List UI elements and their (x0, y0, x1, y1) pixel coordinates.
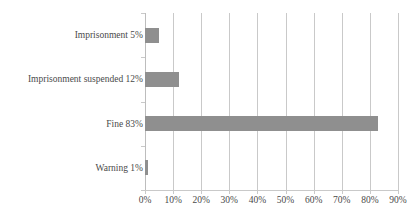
bar-band (145, 146, 398, 190)
x-axis-tick-label: 70% (333, 194, 350, 206)
y-axis-tick (141, 13, 145, 14)
x-axis-tick (398, 190, 399, 194)
x-axis-tick-labels: 0%10%20%30%40%50%60%70%80%90% (0, 194, 415, 210)
bar[interactable] (145, 28, 159, 43)
bar-band (145, 102, 398, 146)
x-axis-tick-label: 20% (193, 194, 210, 206)
bar-band (145, 57, 398, 101)
x-axis-tick-label: 10% (164, 194, 181, 206)
x-axis-tick-label: 90% (389, 194, 406, 206)
gridline-90% (398, 13, 399, 190)
y-axis-tick (141, 102, 145, 103)
bar[interactable] (145, 160, 148, 175)
bar[interactable] (145, 72, 179, 87)
x-axis-tick (286, 190, 287, 194)
x-axis-tick (229, 190, 230, 194)
x-axis-tick (145, 190, 146, 194)
category-label: Fine 83% (0, 118, 143, 129)
category-label: Imprisonment 5% (0, 30, 143, 41)
x-axis-tick (342, 190, 343, 194)
x-axis-tick (314, 190, 315, 194)
x-axis-tick-label: 40% (249, 194, 266, 206)
x-axis-tick (201, 190, 202, 194)
x-axis-tick-label: 80% (361, 194, 378, 206)
category-label: Imprisonment suspended 12% (0, 74, 143, 85)
x-axis-tick (257, 190, 258, 194)
x-axis-tick-label: 30% (221, 194, 238, 206)
plot-area (145, 13, 398, 190)
category-label: Warning 1% (0, 162, 143, 173)
bar[interactable] (145, 116, 378, 131)
x-axis-tick-label: 50% (277, 194, 294, 206)
bar-chart-screenshot: Imprisonment 5%Imprisonment suspended 12… (0, 0, 415, 222)
bar-band (145, 13, 398, 57)
x-axis-tick-label: 0% (139, 194, 152, 206)
x-axis-line (145, 190, 399, 191)
x-axis-tick (370, 190, 371, 194)
category-axis-labels: Imprisonment 5%Imprisonment suspended 12… (0, 0, 143, 190)
y-axis-tick (141, 57, 145, 58)
x-axis-tick (173, 190, 174, 194)
y-axis-tick (141, 146, 145, 147)
x-axis-tick-label: 60% (305, 194, 322, 206)
